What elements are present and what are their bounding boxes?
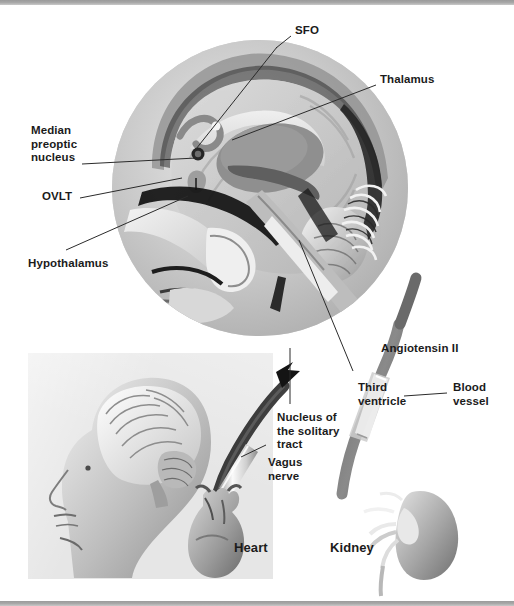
mri-artwork	[112, 40, 408, 336]
label-nucleus-of-the-solitary-tract: Nucleus of the solitary tract	[277, 411, 340, 452]
top-divider-rule	[0, 0, 514, 5]
kidney-illustration	[364, 491, 458, 596]
label-hypothalamus: Hypothalamus	[28, 257, 108, 271]
label-thalamus: Thalamus	[380, 73, 434, 87]
label-vagus-nerve: Vagus nerve	[268, 456, 302, 483]
anatomical-figure: SFO Thalamus Median preoptic nucleus OVL…	[0, 0, 514, 606]
label-third-ventricle: Third ventricle	[358, 381, 406, 408]
label-sfo: SFO	[295, 24, 319, 38]
label-kidney: Kidney	[330, 541, 374, 555]
label-blood-vessel: Blood vessel	[453, 381, 489, 408]
bottom-divider-rule	[0, 601, 514, 606]
label-median-preoptic-nucleus: Median preoptic nucleus	[31, 124, 77, 165]
label-heart: Heart	[234, 541, 268, 555]
label-ovlt: OVLT	[42, 190, 72, 204]
mri-sagittal-head-image	[112, 40, 408, 336]
label-angiotensin-ii: Angiotensin II	[381, 342, 458, 356]
